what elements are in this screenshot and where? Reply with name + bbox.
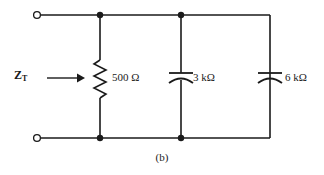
circuit-diagram-figure: ZT 500 Ω 3 kΩ 6 kΩ (b) <box>0 0 324 175</box>
node-dot-capacitor-3k-bottom <box>178 135 184 141</box>
node-dot-resistor-bottom <box>97 135 103 141</box>
resistor-zigzag-symbol <box>94 60 106 98</box>
terminal-top-left <box>34 12 41 19</box>
resistor-500-ohm-label: 500 Ω <box>112 72 139 83</box>
figure-caption: (b) <box>0 152 324 163</box>
terminal-bottom-left <box>34 135 41 142</box>
node-dot-capacitor-3k-top <box>178 12 184 18</box>
impedance-symbol: Z <box>14 68 22 82</box>
impedance-arrow-head <box>77 74 85 83</box>
impedance-subscript: T <box>22 74 27 83</box>
circuit-schematic <box>0 0 324 175</box>
capacitor-6k-label: 6 kΩ <box>285 72 307 83</box>
impedance-label: ZT <box>14 69 27 81</box>
node-dot-resistor-top <box>97 12 103 18</box>
capacitor-3k-label: 3 kΩ <box>193 72 215 83</box>
